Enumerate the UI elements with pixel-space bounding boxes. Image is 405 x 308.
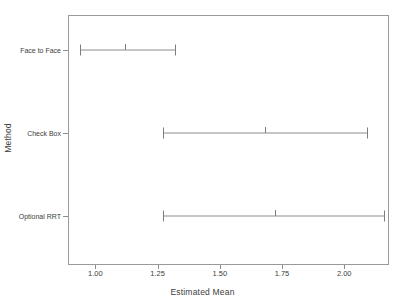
error-bar-line — [80, 49, 175, 50]
error-bar-line — [163, 216, 384, 217]
error-bar-lower-cap — [80, 44, 81, 55]
error-bar-mean-marker — [265, 127, 266, 133]
x-tick-label: 1.75 — [262, 269, 302, 278]
x-axis-title: Estimated Mean — [0, 287, 405, 297]
error-bar-mean-marker — [125, 44, 126, 50]
x-tick-label: 1.50 — [200, 269, 240, 278]
error-bar-upper-cap — [384, 211, 385, 222]
error-bar-chart: Method Estimated Mean 1.001.251.501.752.… — [0, 0, 405, 308]
x-tick-label: 1.00 — [75, 269, 115, 278]
y-tick-label: Face to Face — [0, 46, 61, 53]
y-axis-title: Method — [3, 108, 13, 168]
y-tick-mark — [63, 50, 68, 51]
x-tick-label: 1.25 — [138, 269, 178, 278]
x-tick-label: 2.00 — [324, 269, 364, 278]
error-bar-lower-cap — [163, 211, 164, 222]
error-bar-upper-cap — [175, 44, 176, 55]
y-tick-mark — [63, 216, 68, 217]
error-bar-upper-cap — [367, 128, 368, 139]
plot-area — [68, 15, 389, 265]
error-bar-lower-cap — [163, 128, 164, 139]
y-tick-mark — [63, 133, 68, 134]
y-tick-label: Check Box — [0, 130, 61, 137]
error-bar-mean-marker — [275, 210, 276, 216]
y-tick-label: Optional RRT — [0, 213, 61, 220]
